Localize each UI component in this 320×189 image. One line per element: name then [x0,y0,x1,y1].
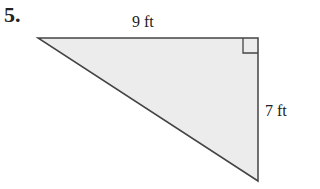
triangle-shape [38,38,258,181]
top-side-label: 9 ft [132,13,154,31]
right-side-label: 7 ft [265,102,287,120]
